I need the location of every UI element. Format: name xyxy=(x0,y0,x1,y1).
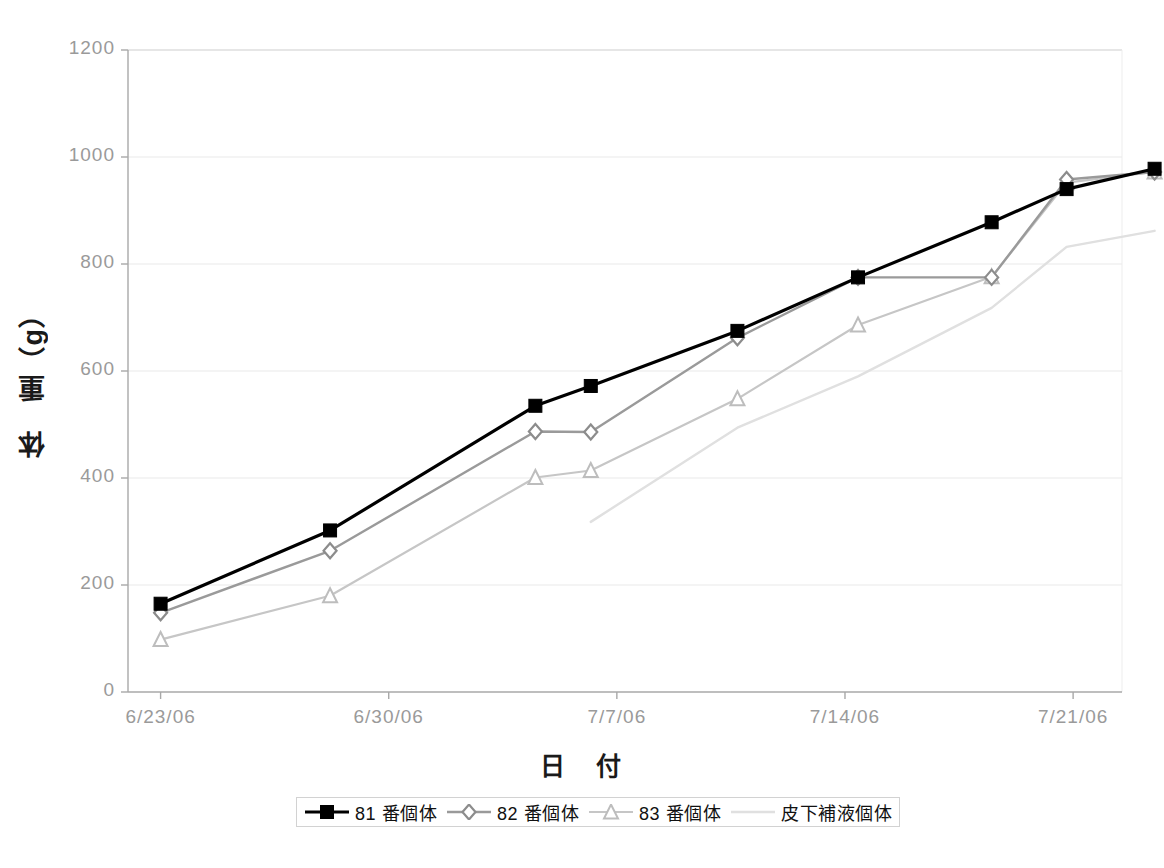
data-point-marker xyxy=(154,597,167,610)
series-2 xyxy=(154,164,1162,646)
x-axis-tick-label: 7/21/06 xyxy=(993,706,1153,728)
legend-label: 82 番個体 xyxy=(497,799,579,825)
legend-entry-0: 81 番個体 xyxy=(304,799,437,825)
legend-entry-2: 83 番個体 xyxy=(588,799,721,825)
legend-swatch-diamond-icon xyxy=(446,804,492,820)
x-axis-tick-label: 6/23/06 xyxy=(81,706,241,728)
data-point-marker xyxy=(1060,183,1073,196)
legend-label: 皮下補液個体 xyxy=(781,799,892,825)
data-point-marker xyxy=(324,524,337,537)
series-line xyxy=(161,169,1155,604)
data-point-marker xyxy=(731,324,744,337)
y-axis-tick-label: 200 xyxy=(25,572,115,594)
data-point-marker xyxy=(529,399,542,412)
x-axis-tick-label: 7/7/06 xyxy=(537,706,697,728)
data-point-marker xyxy=(529,424,542,439)
legend-label: 83 番個体 xyxy=(639,799,721,825)
x-axis-title: 日 付 xyxy=(0,746,1164,782)
data-point-marker xyxy=(851,317,865,331)
x-axis-tick-label: 6/30/06 xyxy=(309,706,469,728)
data-point-marker xyxy=(1148,162,1161,175)
data-point-marker xyxy=(324,543,337,558)
y-axis-tick-label: 800 xyxy=(25,251,115,273)
chart-legend: 81 番個体82 番個体83 番個体皮下補液個体 xyxy=(296,797,900,827)
data-point-marker xyxy=(463,805,476,820)
x-axis-tick-label: 7/14/06 xyxy=(765,706,925,728)
data-point-marker xyxy=(852,271,865,284)
y-axis-tick-label: 400 xyxy=(25,465,115,487)
legend-entry-1: 82 番個体 xyxy=(446,799,579,825)
legend-swatch-line-icon xyxy=(730,804,776,820)
series-line xyxy=(161,172,1155,640)
data-point-marker xyxy=(584,379,597,392)
series-line xyxy=(161,172,1155,613)
data-point-marker xyxy=(584,424,597,439)
y-axis-tick-label: 600 xyxy=(25,358,115,380)
data-point-marker xyxy=(985,216,998,229)
data-point-marker xyxy=(584,463,598,477)
growth-curve-chart: 体 重（g） 020040060080010001200 6/23/066/30… xyxy=(0,0,1164,868)
data-point-marker xyxy=(321,806,334,819)
y-axis-tick-label: 0 xyxy=(25,679,115,701)
legend-swatch-triangle-icon xyxy=(588,804,634,820)
data-point-marker xyxy=(730,391,744,405)
legend-label: 81 番個体 xyxy=(355,799,437,825)
series-1 xyxy=(154,164,1161,620)
legend-entry-3: 皮下補液個体 xyxy=(730,799,892,825)
data-point-marker xyxy=(323,588,337,602)
plot-area xyxy=(0,0,1164,868)
y-axis-tick-label: 1000 xyxy=(25,144,115,166)
series-0 xyxy=(154,162,1161,610)
y-axis-tick-label: 1200 xyxy=(25,37,115,59)
legend-swatch-square-icon xyxy=(304,804,350,820)
